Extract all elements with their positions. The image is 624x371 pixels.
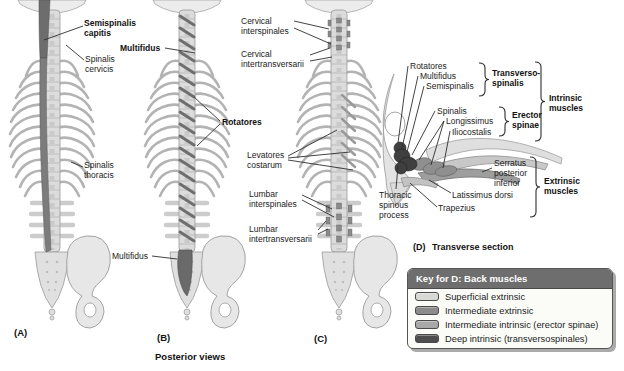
panel-label-b: (B) <box>157 332 170 343</box>
label-lumbar-interspinales: Lumbar interspinales <box>249 189 305 209</box>
key-title: Key for D: Back muscles <box>408 269 612 289</box>
label-levatores-costarum: Levatores costarum <box>247 150 293 170</box>
label-lumbar-intertransversarii: Lumbar intertransversarii <box>249 224 327 244</box>
label-d-iliocostalis: Iliocostalis <box>452 127 491 137</box>
figure-caption: Posterior views <box>155 351 225 362</box>
key-swatch-intermediate-intrinsic <box>415 320 439 329</box>
label-d-serratus-posterior-inferior: Serratus posterior inferior <box>494 158 540 188</box>
panel-d-title: Transverse section <box>432 242 514 252</box>
label-d-transversospinalis: Transverso-spinalis <box>492 68 544 88</box>
key-swatch-intermediate-extrinsic <box>415 306 439 315</box>
label-multifidus-lower: Multifidus <box>112 251 148 261</box>
panel-label-d: (D) Transverse section <box>413 242 514 252</box>
key-label-intermediate-intrinsic: Intermediate intrinsic (erector spinae) <box>445 320 598 330</box>
key-label-deep-intrinsic: Deep intrinsic (transversospinales) <box>445 334 588 344</box>
label-d-intrinsic-muscles: Intrinsic muscles <box>549 93 593 113</box>
key-swatch-superficial-extrinsic <box>415 292 439 301</box>
panel-label-a: (A) <box>14 327 27 338</box>
label-d-spinalis: Spinalis <box>437 106 467 116</box>
label-d-trapezius: Trapezius <box>438 203 475 213</box>
key-swatch-deep-intrinsic <box>415 334 439 343</box>
key-row-intermediate-intrinsic: Intermediate intrinsic (erector spinae) <box>408 318 612 331</box>
label-d-semispinalis: Semispinalis <box>426 81 474 91</box>
label-rotatores: Rotatores <box>222 117 262 127</box>
key-box: Key for D: Back muscles Superficial extr… <box>407 268 613 349</box>
panel-d-letter: (D) <box>413 242 426 252</box>
key-label-superficial-extrinsic: Superficial extrinsic <box>445 292 525 302</box>
label-d-erector-spinae: Erector spinae <box>512 110 548 130</box>
label-d-rotatores: Rotatores <box>410 61 447 71</box>
panel-label-c: (C) <box>314 333 327 344</box>
label-spinalis-thoracis: Spinalis thoracis <box>84 160 126 180</box>
key-row-superficial-extrinsic: Superficial extrinsic <box>408 290 612 303</box>
label-cervical-interspinales: Cervical interspinales <box>241 16 299 36</box>
label-d-extrinsic-muscles: Extrinsic muscles <box>544 176 588 196</box>
key-row-intermediate-extrinsic: Intermediate extrinsic <box>408 304 612 317</box>
back-muscles-figure: Semispinalis capitis Spinalis cervicis S… <box>0 0 624 371</box>
label-d-thoracic-spinous-process: Thoracic spinous process <box>379 190 419 220</box>
label-multifidus-upper: Multifidus <box>120 43 160 53</box>
label-d-multifidus: Multifidus <box>420 71 456 81</box>
key-row-deep-intrinsic: Deep intrinsic (transversospinales) <box>408 332 612 345</box>
label-semispinalis-capitis: Semispinalis capitis <box>84 18 146 38</box>
label-cervical-intertransversarii: Cervical intertransversarii <box>241 49 319 69</box>
label-d-latissimus-dorsi: Latissimus dorsi <box>452 190 513 200</box>
key-label-intermediate-extrinsic: Intermediate extrinsic <box>445 306 533 316</box>
label-d-longissimus: Longissimus <box>446 116 493 126</box>
label-spinalis-cervicis: Spinalis cervicis <box>85 54 127 74</box>
